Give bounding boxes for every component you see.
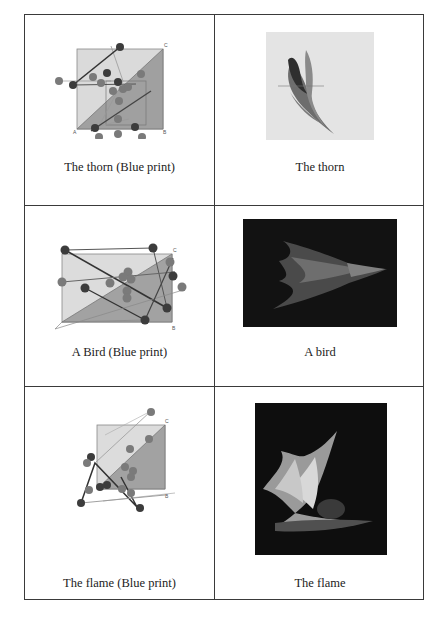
cell-thorn-blueprint: C A B The thorn (Blue print) [25,15,214,205]
caption-thorn-blueprint: The thorn (Blue print) [25,160,214,175]
blueprint-diagram-icon: C B [35,236,205,346]
cell-bird-blueprint: C B A Bird (Blue print) [25,206,214,386]
svg-text:A: A [73,129,77,135]
cell-flame-blueprint: C B The flame (Blue print) [25,387,214,601]
blueprint-diagram-icon: C A B [51,21,191,139]
svg-text:C: C [165,418,169,424]
caption-bird-blueprint: A Bird (Blue print) [25,345,214,360]
svg-text:C: C [164,42,168,48]
cell-thorn: The thorn [215,15,425,205]
cell-flame: The flame [215,387,425,601]
fractal-thorn-image-icon [266,32,374,140]
svg-text:B: B [172,325,176,331]
caption-flame: The flame [215,576,425,591]
blueprint-diagram-icon: C B [55,405,195,525]
svg-text:B: B [163,129,167,135]
caption-bird: A bird [215,345,425,360]
caption-flame-blueprint: The flame (Blue print) [25,576,214,591]
fractal-bird-image-icon [243,219,397,327]
cell-bird: A bird [215,206,425,386]
figure-table: C A B The thorn (Blue print) The thorn [24,14,424,600]
caption-thorn: The thorn [215,160,425,175]
fractal-flame-image-icon [255,403,387,555]
svg-text:C: C [173,247,177,253]
